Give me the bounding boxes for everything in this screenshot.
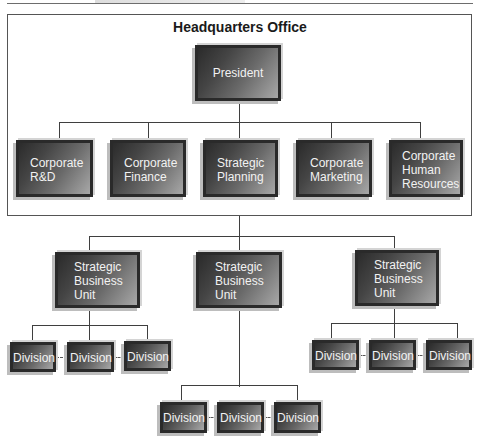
corporate-rnd-box: Corporate R&D [16,140,93,197]
division-box: Division [10,342,56,372]
connector [331,323,332,340]
corporate-finance-box: Corporate Finance [110,140,186,197]
connector [297,385,298,402]
connector [239,122,240,140]
corporate-hr-label: Corporate Human Resources [402,149,460,191]
dashed-link [416,355,426,356]
connector [148,122,149,140]
dashed-link [264,417,274,418]
connector [89,236,394,237]
connector [89,325,90,342]
division-label: Division [277,411,318,425]
connector [239,216,240,252]
corporate-hr-box: Corporate Human Resources [389,140,463,197]
connector [32,325,148,326]
division-label: Division [220,411,261,425]
division-box: Division [217,402,264,433]
sbu-box-center: Strategic Business Unit [196,252,282,308]
division-box: Division [160,402,207,433]
division-box: Division [369,340,416,370]
division-label: Division [372,349,413,363]
connector [394,236,395,250]
connector [32,325,33,342]
corporate-marketing-label: Corporate Marketing [310,156,369,184]
corporate-marketing-box: Corporate Marketing [296,140,372,197]
division-box: Division [274,402,321,433]
dashed-link [56,357,67,358]
division-box: Division [312,340,359,370]
division-box: Division [426,340,472,370]
division-label: Division [127,350,168,364]
sbu-label: Strategic Business Unit [215,260,279,302]
division-label: Division [13,351,53,365]
strategic-planning-box: Strategic Planning [203,140,278,197]
president-label: President [198,66,278,80]
division-label: Division [163,411,204,425]
division-box: Division [67,342,114,372]
connector [394,305,395,323]
sbu-box-left: Strategic Business Unit [55,252,140,308]
connector [59,122,60,140]
strategic-planning-label: Strategic Planning [217,156,275,184]
connector [181,385,182,402]
connector [181,385,298,386]
connector [331,122,332,140]
connector [147,325,148,342]
connector [420,122,421,140]
sbu-label: Strategic Business Unit [374,258,436,300]
dashed-link [114,357,124,358]
connector [239,307,240,387]
division-label: Division [70,351,111,365]
corporate-rnd-label: Corporate R&D [30,156,90,184]
dashed-link [359,355,369,356]
sbu-box-right: Strategic Business Unit [355,250,439,306]
connector [89,236,90,252]
division-label: Division [429,349,469,363]
sbu-label: Strategic Business Unit [74,260,137,302]
president-box: President [195,45,281,101]
connector [394,323,395,340]
corporate-finance-label: Corporate Finance [124,156,183,184]
headquarters-title: Headquarters Office [0,19,480,35]
connector [457,323,458,340]
division-box: Division [124,341,171,371]
connector [239,100,240,122]
connector [89,307,90,325]
dashed-link [207,417,217,418]
page-top-rule [7,3,473,4]
division-label: Division [315,349,356,363]
